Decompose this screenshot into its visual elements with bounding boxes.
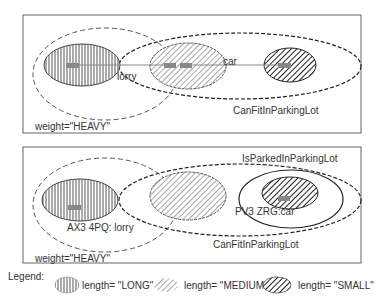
car-label: PV3 ZRG:car <box>235 206 295 217</box>
medium-marker-1 <box>164 63 176 68</box>
medium-ellipse <box>150 172 226 220</box>
legend-label-small: length= "SMALL" <box>298 280 374 291</box>
legend: Legend: length= "LONG" length= "MEDIUM" … <box>8 271 374 293</box>
car-ellipse <box>262 177 318 209</box>
car-marker <box>278 196 290 201</box>
lorry-label: lorry <box>117 71 136 82</box>
lorry-marker <box>66 63 79 68</box>
legend-swatch-small <box>263 277 291 293</box>
car-marker <box>278 63 291 68</box>
panel-top: lorry car CanFitInParkingLot weight="HEA… <box>23 15 361 133</box>
panel-bottom: AX3 4PQ: lorry PV3 ZRG:car IsParkedInPar… <box>23 147 361 264</box>
car-label: car <box>223 56 238 67</box>
weight-label: weight="HEAVY" <box>34 121 110 132</box>
canfit-label: CanFitInParkingLot <box>213 239 299 250</box>
medium-marker-2 <box>180 63 192 68</box>
isparked-label: IsParkedInParkingLot <box>242 153 338 164</box>
lorry-label: AX3 4PQ: lorry <box>67 222 134 233</box>
legend-swatch-medium <box>154 278 178 292</box>
legend-title: Legend: <box>8 271 44 282</box>
lorry-marker <box>68 205 81 210</box>
weight-label: weight="HEAVY" <box>34 253 110 264</box>
lorry-ellipse <box>42 179 118 221</box>
canfit-label: CanFitInParkingLot <box>233 105 319 116</box>
legend-swatch-long <box>55 277 79 293</box>
legend-label-medium: length= "MEDIUM" <box>184 280 268 291</box>
legend-label-long: length= "LONG" <box>82 280 154 291</box>
diagram-canvas: lorry car CanFitInParkingLot weight="HEA… <box>0 0 387 308</box>
